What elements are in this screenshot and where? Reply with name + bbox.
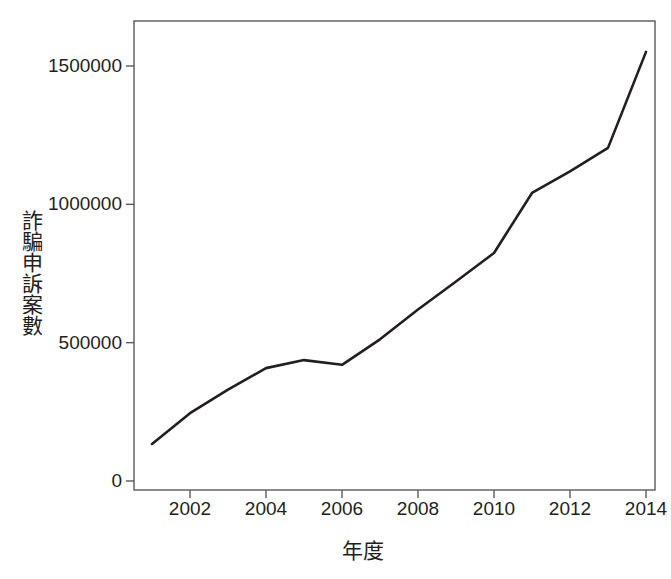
data-series-line [152,52,646,444]
chart-figure: 詐騙申訴案數 年度 050000010000001500000 20022004… [0,0,671,579]
plot-frame [134,21,655,490]
axis-ticks [126,66,646,498]
line-chart-plot [0,0,671,579]
